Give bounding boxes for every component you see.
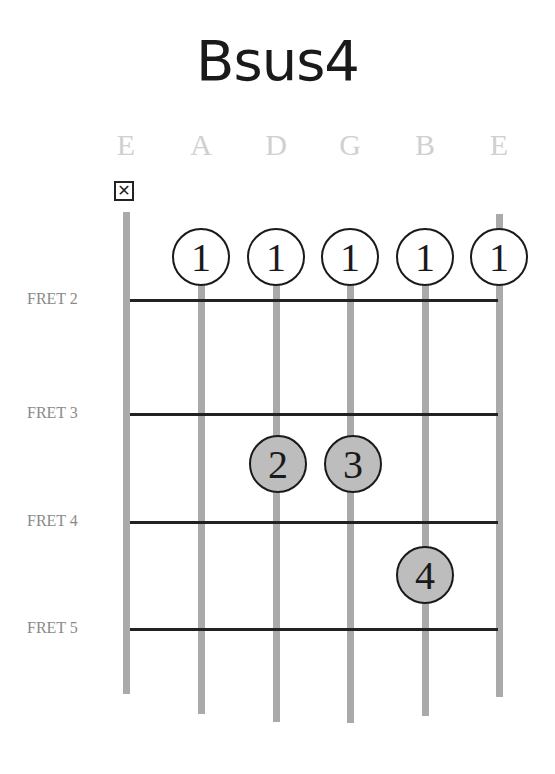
finger-dot: 1: [396, 228, 454, 286]
string-name-label: G: [330, 128, 370, 162]
fret-line: [130, 413, 498, 416]
chord-title: Bsus4: [0, 28, 555, 93]
string-line: [496, 214, 503, 697]
string-name-label: A: [181, 128, 221, 162]
fret-label: FRET 2: [27, 290, 78, 308]
fret-label: FRET 3: [27, 404, 78, 422]
string-name-label: E: [479, 128, 519, 162]
finger-dot: 1: [172, 228, 230, 286]
finger-dot: 3: [324, 435, 382, 493]
muted-string-icon: ✕: [114, 181, 134, 201]
string-name-label: B: [405, 128, 445, 162]
fret-label: FRET 4: [27, 512, 78, 530]
finger-dot: 1: [247, 228, 305, 286]
fret-line: [130, 299, 498, 302]
string-name-label: D: [256, 128, 296, 162]
finger-dot: 2: [249, 435, 307, 493]
string-line: [123, 212, 130, 694]
string-line: [273, 285, 280, 722]
fret-line: [130, 521, 498, 524]
finger-dot: 4: [396, 546, 454, 604]
string-line: [198, 285, 205, 714]
finger-dot: 1: [321, 228, 379, 286]
string-line: [422, 285, 429, 716]
finger-dot: 1: [470, 228, 528, 286]
string-name-label: E: [106, 128, 146, 162]
fret-line: [130, 628, 498, 631]
string-line: [347, 285, 354, 723]
fret-label: FRET 5: [27, 619, 78, 637]
